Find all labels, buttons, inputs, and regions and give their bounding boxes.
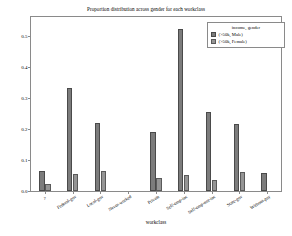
- x-axis-tick-label: ?: [44, 196, 46, 201]
- legend-entries: (>50k, Male)(>50k, Female): [211, 32, 281, 44]
- x-axis-tick-label: Self-emp-not-inc: [187, 194, 216, 215]
- x-axis-tick-label: Without-pay: [249, 194, 271, 210]
- chart-figure: Proportion distribution across gender fo…: [0, 0, 292, 236]
- bar-male: [95, 123, 100, 191]
- x-axis-tick-label: Never-worked: [107, 194, 132, 212]
- x-axis-tick-label: Local-gov: [86, 194, 105, 208]
- bar-male: [234, 124, 239, 191]
- legend-swatch-icon: [211, 32, 216, 37]
- bar-male: [67, 88, 72, 191]
- y-axis-tick-mark: [28, 67, 31, 68]
- legend-entry: (>50k, Female): [211, 39, 281, 44]
- y-axis-tick-mark: [28, 98, 31, 99]
- legend-title: income, gender: [211, 25, 281, 30]
- x-axis-tick-label: Federal-gov: [56, 194, 77, 210]
- y-axis-tick-mark: [28, 160, 31, 161]
- bar-male: [178, 29, 183, 191]
- bar-female: [212, 180, 217, 191]
- legend-label: (>50k, Female): [219, 39, 247, 44]
- bar-female: [101, 171, 106, 191]
- bar-group: [59, 17, 87, 191]
- bar-group: [170, 17, 198, 191]
- bar-group: [114, 17, 142, 191]
- bar-female: [184, 175, 189, 191]
- y-axis-tick-label: 0.1: [21, 157, 27, 162]
- y-axis-tick-label: 0.5: [21, 33, 27, 38]
- x-axis-tick-mark: [45, 191, 46, 194]
- bar-female: [73, 174, 78, 191]
- x-axis-tick-label: Private: [147, 194, 161, 205]
- bar-group: [87, 17, 115, 191]
- y-axis-tick-label: 0.3: [21, 95, 27, 100]
- bar-male: [39, 171, 44, 191]
- bar-male: [206, 112, 211, 191]
- y-axis-tick-mark: [28, 191, 31, 192]
- bar-female: [45, 184, 50, 191]
- x-axis-tick-label: State-gov: [226, 194, 244, 208]
- legend-swatch-icon: [211, 39, 216, 44]
- legend-entry: (>50k, Male): [211, 32, 281, 37]
- y-axis-tick-label: 0.0: [21, 189, 27, 194]
- x-axis-label: workclass: [30, 219, 282, 225]
- bar-group: [142, 17, 170, 191]
- y-axis-tick-label: 0.4: [21, 64, 27, 69]
- bar-female: [240, 172, 245, 191]
- bar-male: [150, 132, 155, 191]
- bar-female: [156, 178, 161, 191]
- y-axis-tick-label: 0.2: [21, 126, 27, 131]
- y-axis-tick-mark: [28, 129, 31, 130]
- bar-male: [261, 173, 266, 191]
- bar-group: [31, 17, 59, 191]
- chart-title: Proportion distribution across gender fo…: [0, 6, 292, 12]
- legend-label: (>50k, Male): [219, 32, 243, 37]
- chart-legend: income, gender (>50k, Male)(>50k, Female…: [207, 22, 285, 48]
- x-axis-tick-label: Self-emp-inc: [165, 194, 188, 211]
- y-axis-tick-mark: [28, 36, 31, 37]
